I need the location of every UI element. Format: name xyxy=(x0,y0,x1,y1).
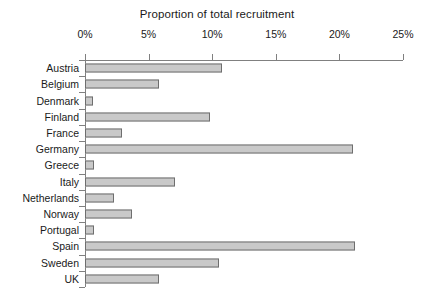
x-axis-tick-label: 0% xyxy=(77,28,92,40)
x-axis-tick-label: 20% xyxy=(329,28,350,40)
bar xyxy=(85,274,159,283)
category-label: Austria xyxy=(1,62,79,74)
bar xyxy=(85,145,353,154)
bar xyxy=(85,193,114,202)
category-label: Spain xyxy=(1,240,79,252)
plot-area xyxy=(85,60,403,287)
y-axis-tick xyxy=(79,287,85,288)
x-axis-tick-label: 15% xyxy=(265,28,286,40)
category-label: Denmark xyxy=(1,95,79,107)
category-label: Germany xyxy=(1,143,79,155)
bar xyxy=(85,80,159,89)
bar xyxy=(85,96,93,105)
x-axis-tick-label: 25% xyxy=(392,28,413,40)
category-label: UK xyxy=(1,273,79,285)
category-label: Portugal xyxy=(1,224,79,236)
x-axis-tick-label: 10% xyxy=(202,28,223,40)
bar xyxy=(85,112,210,121)
category-label: Netherlands xyxy=(1,192,79,204)
bar xyxy=(85,128,122,137)
bar xyxy=(85,64,222,73)
bar xyxy=(85,210,132,219)
category-label: Greece xyxy=(1,159,79,171)
bar-chart: Proportion of total recruitment 0%5%10%1… xyxy=(0,0,434,296)
category-label: France xyxy=(1,127,79,139)
bar xyxy=(85,161,94,170)
y-axis-category-labels: AustriaBelgiumDenmarkFinlandFranceGerman… xyxy=(0,0,79,296)
category-label: Finland xyxy=(1,111,79,123)
category-label: Italy xyxy=(1,176,79,188)
category-label: Belgium xyxy=(1,78,79,90)
bar xyxy=(85,258,219,267)
bar xyxy=(85,226,94,235)
category-label: Norway xyxy=(1,208,79,220)
x-axis-tick xyxy=(403,54,404,60)
category-label: Sweden xyxy=(1,257,79,269)
bar xyxy=(85,242,355,251)
bar xyxy=(85,177,175,186)
x-axis-tick-label: 5% xyxy=(141,28,156,40)
